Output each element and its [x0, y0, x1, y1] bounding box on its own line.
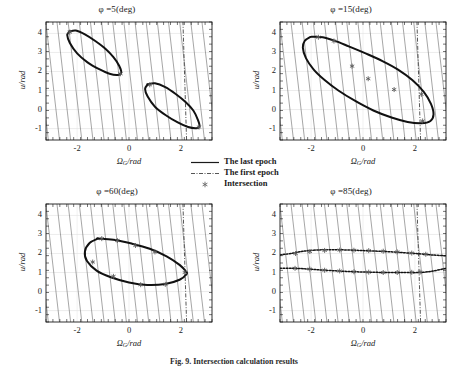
x-tick-label: -2: [299, 143, 323, 153]
x-axis-label: ΩG/rad: [280, 338, 446, 348]
y-tick-label: 4: [256, 209, 276, 219]
x-tick-label: -2: [299, 325, 323, 335]
y-tick-label: 4: [22, 27, 42, 37]
x-tick-label: 0: [351, 143, 375, 153]
x-tick-label: 2: [403, 325, 427, 335]
figure-root: φ =5(deg)-101234-202u/radΩG/radφ =15(deg…: [0, 0, 468, 369]
legend-swatch-dash-dot-line: [190, 168, 220, 179]
y-axis-label: u/rad: [17, 240, 27, 284]
y-tick-label: 0: [22, 286, 42, 296]
x-axis-label: ΩG/rad: [46, 156, 212, 166]
x-axis-label: ΩG/rad: [46, 338, 212, 348]
x-tick-label: 0: [117, 143, 141, 153]
y-tick-label: 3: [22, 46, 42, 56]
y-axis-label: u/rad: [17, 58, 27, 102]
grid-horizontal: [46, 204, 212, 322]
panel-title: φ =5(deg): [6, 4, 228, 14]
intersection-marker: [392, 87, 396, 91]
y-tick-label: 4: [22, 209, 42, 219]
chart-panel-15deg: φ =15(deg)-101234-202u/radΩG/rad: [240, 4, 462, 180]
legend-label: The last epoch: [224, 156, 276, 167]
y-tick-label: 3: [22, 228, 42, 238]
x-axis-label-unit: /rad: [361, 338, 375, 348]
x-axis-label-unit: /rad: [127, 156, 141, 166]
legend-label: Intersection: [224, 178, 267, 189]
y-tick-label: 3: [256, 228, 276, 238]
intersection-marker: [366, 77, 370, 81]
y-tick-label: -1: [22, 123, 42, 133]
panel-title: φ =15(deg): [240, 4, 462, 14]
intersection-marker: [91, 260, 95, 264]
legend-swatch-solid-line: [190, 157, 220, 168]
chart-panel-85deg: φ =85(deg)-101234-202u/radΩG/rad: [240, 186, 462, 362]
x-tick-label: 0: [351, 325, 375, 335]
first-epoch-line: [183, 22, 187, 140]
x-tick-label: 2: [169, 325, 193, 335]
intersection-markers: [91, 237, 187, 287]
first-epoch-line: [417, 204, 421, 322]
legend-label: The first epoch: [224, 167, 279, 178]
x-tick-label: 0: [117, 325, 141, 335]
y-axis-label: u/rad: [251, 58, 261, 102]
y-tick-label: 0: [22, 104, 42, 114]
intersection-marker: [420, 92, 424, 96]
chart-panel-60deg: φ =60(deg)-101234-202u/radΩG/rad: [6, 186, 228, 362]
intersection-marker: [350, 64, 354, 68]
grid-horizontal: [46, 22, 212, 140]
chart-panel-5deg: φ =5(deg)-101234-202u/radΩG/rad: [6, 4, 228, 180]
y-tick-label: 0: [256, 104, 276, 114]
grid-horizontal: [280, 204, 446, 322]
x-axis-label-unit: /rad: [127, 338, 141, 348]
panel-title: φ =85(deg): [240, 186, 462, 196]
y-tick-label: -1: [256, 123, 276, 133]
intersection-markers: [293, 248, 427, 275]
y-tick-label: 4: [256, 27, 276, 37]
x-tick-label: 2: [403, 143, 427, 153]
y-tick-label: -1: [256, 305, 276, 315]
y-axis-label: u/rad: [251, 240, 261, 284]
legend-swatch-star-marker: [190, 179, 220, 190]
y-tick-label: -1: [22, 305, 42, 315]
y-tick-label: 3: [256, 46, 276, 56]
x-axis-label-unit: /rad: [361, 156, 375, 166]
x-tick-label: -2: [65, 325, 89, 335]
x-tick-label: 2: [169, 143, 193, 153]
first-epoch-line: [183, 204, 187, 322]
intersection-marker: [203, 182, 207, 187]
figure-caption: Fig. 9. Intersection calculation results: [0, 357, 468, 366]
y-tick-label: 0: [256, 286, 276, 296]
x-tick-label: -2: [65, 143, 89, 153]
x-axis-label: ΩG/rad: [280, 156, 446, 166]
